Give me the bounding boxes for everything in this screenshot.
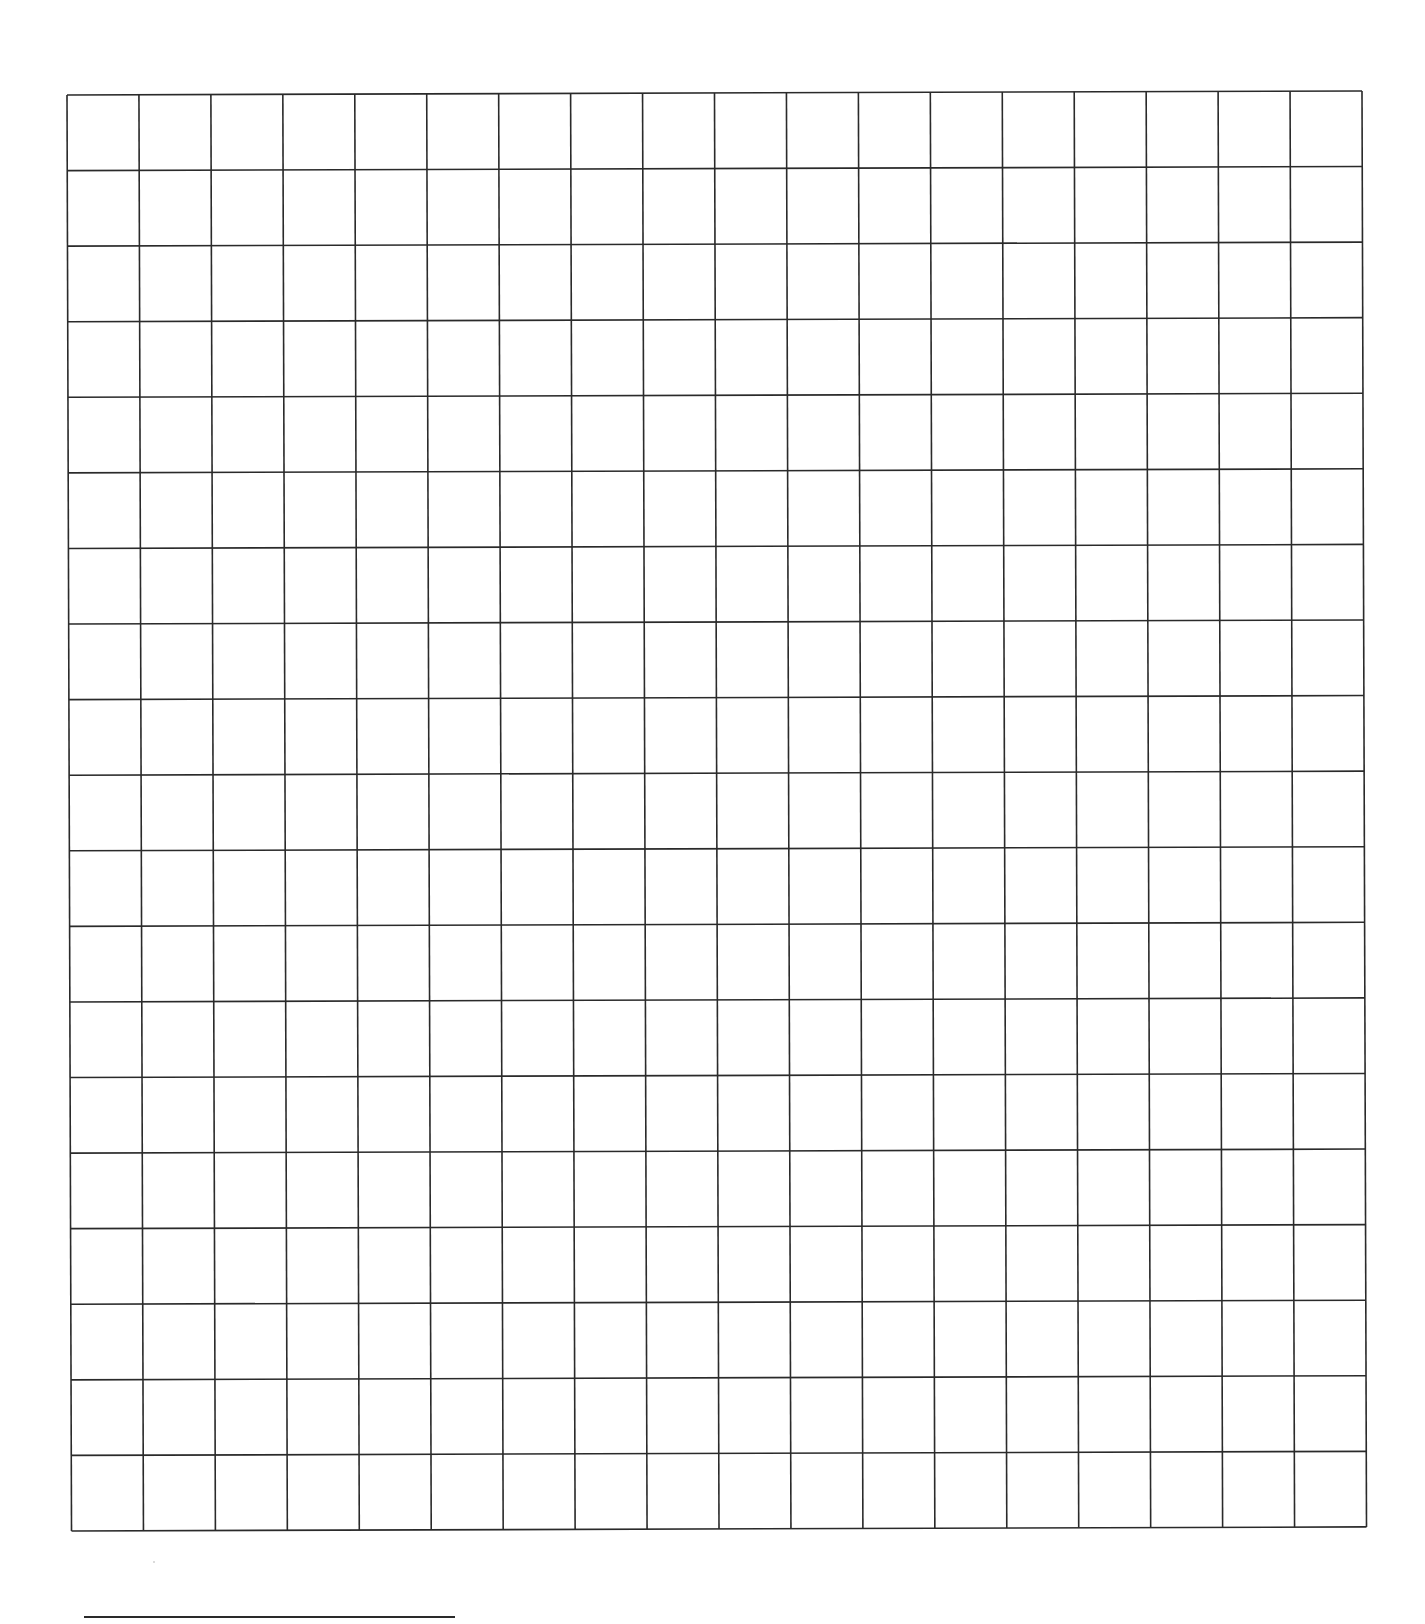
grid-vertical-line <box>1146 92 1151 1528</box>
grid-vertical-line <box>1218 91 1223 1527</box>
grid-vertical-line <box>67 95 72 1531</box>
grid-vertical-line <box>1002 92 1007 1528</box>
grid-vertical-line <box>714 93 719 1529</box>
graph-grid <box>67 91 1367 1531</box>
grid-vertical-line <box>283 94 288 1530</box>
scan-speck <box>153 1561 155 1563</box>
grid-vertical-line <box>930 92 935 1528</box>
grid-vertical-line <box>427 94 432 1530</box>
grid-vertical-line <box>355 94 360 1530</box>
grid-vertical-line <box>858 93 863 1529</box>
grid-vertical-line <box>499 94 504 1530</box>
grid-vertical-line <box>139 95 144 1531</box>
grid-vertical-line <box>571 93 576 1529</box>
grid-vertical-line <box>786 93 791 1529</box>
grid-vertical-line <box>1074 92 1079 1528</box>
grid-vertical-line <box>1362 91 1367 1527</box>
name-line <box>84 1616 455 1618</box>
grid-vertical-line <box>211 95 216 1531</box>
grid-vertical-line <box>643 93 648 1529</box>
worksheet-page <box>0 0 1425 1624</box>
grid-lines <box>67 91 1367 1531</box>
grid-vertical-line <box>1290 91 1295 1527</box>
